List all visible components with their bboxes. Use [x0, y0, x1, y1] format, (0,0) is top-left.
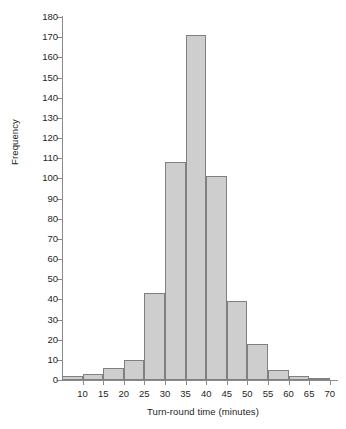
y-tick: 20 [62, 340, 63, 341]
y-tick: 50 [62, 279, 63, 280]
y-tick: 60 [62, 259, 63, 260]
histogram-bar [124, 360, 145, 380]
y-tick: 90 [62, 199, 63, 200]
y-tick: 110 [62, 158, 63, 159]
x-tick-mark [206, 381, 207, 385]
y-tick-label: 0 [53, 374, 58, 385]
x-tick-mark [227, 381, 228, 385]
x-tick-mark [289, 381, 290, 385]
y-tick: 170 [62, 37, 63, 38]
y-tick-label: 90 [47, 193, 58, 204]
y-tick: 130 [62, 118, 63, 119]
y-tick-label: 160 [42, 51, 58, 62]
y-tick: 70 [62, 239, 63, 240]
y-tick: 30 [62, 320, 63, 321]
y-tick-label: 70 [47, 233, 58, 244]
y-axis-title: Frequency [4, 94, 26, 190]
y-tick-label: 60 [47, 253, 58, 264]
histogram-bar [268, 370, 289, 380]
y-tick-label: 10 [47, 354, 58, 365]
x-tick-mark [247, 381, 248, 385]
y-tick: 0 [62, 380, 63, 381]
y-tick: 120 [62, 138, 63, 139]
x-tick-mark [330, 381, 331, 385]
y-tick-label: 30 [47, 314, 58, 325]
y-tick: 160 [62, 57, 63, 58]
x-tick-mark [309, 381, 310, 385]
histogram-bar [62, 376, 83, 380]
y-tick-label: 120 [42, 132, 58, 143]
x-axis-title: Turn-round time (minutes) [60, 406, 346, 417]
y-tick-label: 140 [42, 92, 58, 103]
histogram-bar [103, 368, 124, 380]
x-tick-label: 70 [315, 388, 345, 400]
x-tick-mark [103, 381, 104, 385]
y-tick-label: 130 [42, 112, 58, 123]
x-tick-mark [144, 381, 145, 385]
y-tick-label: 80 [47, 213, 58, 224]
y-tick-label: 180 [42, 11, 58, 22]
x-tick-mark [83, 381, 84, 385]
histogram-chart: Frequency 010203040506070809010011012013… [0, 0, 346, 429]
y-tick: 100 [62, 178, 63, 179]
histogram-bar [165, 162, 186, 380]
y-tick-label: 50 [47, 273, 58, 284]
histogram-bar [247, 344, 268, 380]
histogram-bar [83, 374, 104, 380]
y-tick-label: 20 [47, 334, 58, 345]
x-tick-mark [186, 381, 187, 385]
y-tick-label: 150 [42, 72, 58, 83]
x-tick-mark [124, 381, 125, 385]
y-tick-label: 110 [43, 152, 58, 163]
y-tick-label: 40 [47, 293, 58, 304]
y-tick: 150 [62, 78, 63, 79]
y-tick-label: 100 [42, 172, 58, 183]
y-tick: 10 [62, 360, 63, 361]
histogram-bar [144, 293, 165, 380]
x-tick-mark [165, 381, 166, 385]
y-tick: 40 [62, 299, 63, 300]
y-tick: 140 [62, 98, 63, 99]
histogram-bar [206, 176, 227, 380]
histogram-bar [186, 35, 207, 380]
histogram-bar [227, 301, 248, 380]
y-tick: 180 [62, 17, 63, 18]
x-tick-mark [268, 381, 269, 385]
plot-area: 0102030405060708090100110120130140150160… [62, 16, 338, 381]
y-tick: 80 [62, 219, 63, 220]
histogram-bar [309, 378, 330, 380]
histogram-bar [289, 376, 310, 380]
y-tick-label: 170 [42, 31, 58, 42]
